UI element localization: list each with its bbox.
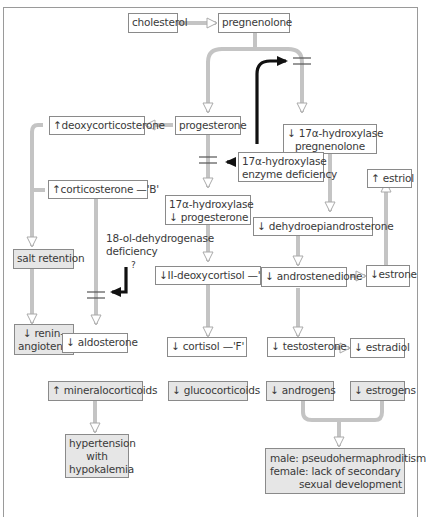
node-mineralocorticoids: ↑ mineralocorticoids	[48, 381, 143, 401]
node-androgens: ↓ androgens	[266, 381, 334, 401]
node-dehydroepiandrosterone: ↓ dehydroepiandrosterone	[253, 217, 373, 236]
node-11-deoxycortisol: ↓II-deoxycortisol —'S'	[155, 266, 261, 285]
node-line: hypokalemia	[69, 463, 125, 476]
node-estriol: ↑ estriol	[367, 169, 412, 188]
node-line: ↓ progesterone	[169, 211, 247, 224]
node-salt-retention: salt retention	[13, 249, 74, 269]
node-progesterone: progesterone	[175, 116, 241, 135]
node-17a-hydroxylase-progesterone: 17α-hydroxylase ↓ progesterone	[165, 195, 251, 225]
outcome-female-cont: sexual development	[270, 478, 400, 491]
label-18-ol-dehydrogenase-deficiency: 18-ol-dehydrogenase deficiency	[106, 232, 214, 258]
node-line: enzyme deficiency	[242, 168, 320, 181]
node-estrogens: ↓ estrogens	[350, 381, 405, 401]
node-cortisol: ↓ cortisol —'F'	[167, 337, 247, 357]
node-aldosterone: ↓ aldosterone	[62, 333, 128, 353]
label-line: 18-ol-dehydrogenase	[106, 232, 214, 245]
node-17a-hydroxylase-deficiency: 17α-hydroxylase enzyme deficiency	[238, 152, 324, 182]
node-clinical-outcome: male: pseudohermaphroditism female: lack…	[265, 448, 405, 494]
node-pregnenolone: pregnenolone	[218, 13, 290, 33]
node-line: 17α-hydroxylase	[242, 155, 320, 168]
label-line: deficiency	[106, 245, 214, 258]
node-line: hypertension	[69, 437, 125, 450]
label-question-mark: ?	[131, 259, 136, 272]
node-deoxycorticosterone: ↑deoxycorticosterone	[49, 116, 145, 135]
node-testosterone: ↓ testosterone	[267, 337, 335, 357]
node-androstenedione: ↓ androstenedione	[261, 267, 347, 287]
node-estradiol: ↓ estradiol	[350, 338, 405, 358]
outcome-male: male: pseudohermaphroditism	[270, 452, 400, 465]
node-line: 17α-hydroxylase	[169, 198, 247, 211]
node-hypertension-hypokalemia: hypertension with hypokalemia	[65, 434, 129, 478]
outcome-female: female: lack of secondary	[270, 465, 400, 478]
node-line: ↓ 17α-hydroxylase	[287, 127, 373, 140]
node-estrone: ↓estrone	[366, 265, 410, 287]
node-cholesterol: cholesterol	[128, 13, 178, 33]
node-glucocorticoids: ↓ glucocorticoids	[168, 381, 248, 401]
node-corticosterone: ↑corticosterone —'B'	[48, 180, 148, 199]
node-17a-hydroxylase-pregnenolone: ↓ 17α-hydroxylase pregnenolone	[283, 124, 377, 154]
node-line: with	[69, 450, 125, 463]
